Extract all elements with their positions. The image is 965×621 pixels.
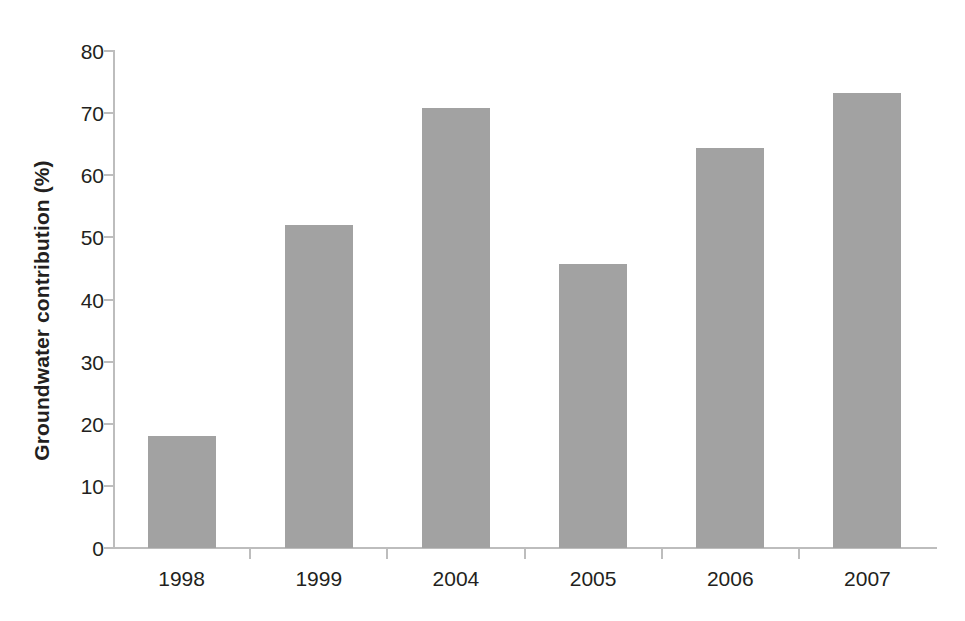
y-axis-tick [104,423,113,425]
x-axis-tick-label: 2004 [433,568,480,589]
y-axis-title: Groundwater contribution (%) [10,0,74,621]
y-axis-tick-label: 10 [81,475,104,496]
y-axis-tick [104,361,113,363]
y-axis-tick-label: 50 [81,227,104,248]
y-axis-tick-label: 80 [81,41,104,62]
x-axis-tick [798,549,800,559]
bar [696,148,764,548]
plot-area: 01020304050607080 [113,51,936,548]
y-axis-tick-label: 60 [81,165,104,186]
y-axis-tick-label: 0 [92,538,104,559]
y-axis-tick [104,112,113,114]
y-axis-tick [104,547,113,549]
y-axis-tick [104,174,113,176]
bar [148,436,216,548]
y-axis-tick [104,485,113,487]
bar [833,93,901,548]
y-axis-tick-label: 20 [81,413,104,434]
bar-chart-figure: Groundwater contribution (%) 01020304050… [0,0,965,621]
x-axis-tick [386,549,388,559]
x-axis-tick-label: 1998 [158,568,205,589]
x-axis-tick-label: 1999 [295,568,342,589]
x-axis-tick-label: 2005 [570,568,617,589]
bar [559,264,627,548]
y-axis-tick-label: 30 [81,351,104,372]
x-axis-tick [249,549,251,559]
y-axis-tick-label: 40 [81,289,104,310]
bar [285,225,353,548]
x-axis-tick [524,549,526,559]
y-axis-tick-label: 70 [81,103,104,124]
x-axis-tick [661,549,663,559]
x-axis-tick-label: 2007 [844,568,891,589]
y-axis-tick [104,299,113,301]
bar [422,108,490,548]
y-axis-tick [104,236,113,238]
x-axis-tick-label: 2006 [707,568,754,589]
y-axis-tick [104,50,113,52]
